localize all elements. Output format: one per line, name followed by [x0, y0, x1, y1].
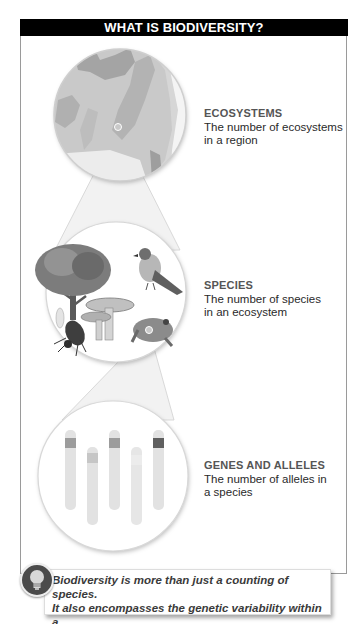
ecosystems-desc-line2: in a region: [204, 134, 343, 148]
ecosystems-desc-line1: The number of ecosystems: [204, 121, 343, 135]
species-circle: [35, 222, 186, 362]
callout-line2: It also encompasses the genetic variabil…: [52, 601, 324, 624]
species-desc-line2: in an ecosystem: [204, 306, 321, 320]
chromosome-5: [153, 430, 164, 510]
genes-desc-line2: a species: [204, 486, 327, 500]
species-desc-line1: The number of species: [204, 293, 321, 307]
genes-heading: GENES AND ALLELES: [204, 459, 327, 473]
lightbulb-icon: [20, 563, 54, 597]
species-label: SPECIES The number of species in an ecos…: [204, 279, 321, 320]
species-heading: SPECIES: [204, 279, 321, 293]
callout-box: Biodiversity is more than just a countin…: [44, 569, 331, 615]
ecosystems-label: ECOSYSTEMS The number of ecosystems in a…: [204, 107, 343, 148]
chromosome-2: [87, 447, 98, 525]
genes-label: GENES AND ALLELES The number of alleles …: [204, 459, 327, 500]
genes-desc-line1: The number of alleles in: [204, 473, 327, 487]
chromosome-1: [65, 430, 76, 510]
genes-chromosomes-circle: [38, 401, 188, 551]
ecosystem-map-circle: [40, 40, 200, 190]
chromosome-3: [109, 430, 120, 510]
ecosystems-heading: ECOSYSTEMS: [204, 107, 343, 121]
chromosome-4: [131, 447, 142, 525]
callout-line1: Biodiversity is more than just a countin…: [52, 573, 324, 601]
